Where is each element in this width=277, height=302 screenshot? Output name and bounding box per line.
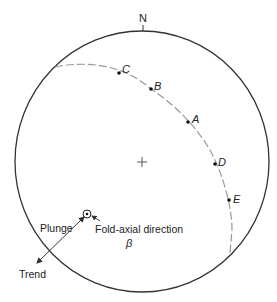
- point-d: D: [213, 156, 226, 168]
- svg-text:A: A: [191, 113, 199, 125]
- plunge-label: Plunge: [40, 222, 73, 234]
- stereonet-diagram: N C B A D E Plunge Trend Fold-axial dire…: [0, 0, 277, 302]
- fold-axial-label: Fold-axial direction: [95, 223, 183, 235]
- svg-text:E: E: [233, 193, 241, 205]
- point-b: B: [149, 80, 161, 92]
- fold-axis-point: [83, 210, 91, 218]
- svg-text:D: D: [218, 156, 226, 168]
- beta-label: β: [125, 237, 133, 249]
- north-label: N: [139, 12, 147, 24]
- svg-text:C: C: [122, 63, 130, 75]
- svg-text:B: B: [154, 80, 161, 92]
- point-c: C: [117, 63, 130, 75]
- point-a: A: [186, 113, 199, 125]
- fold-axial-pointer: [92, 216, 100, 221]
- trend-label: Trend: [19, 268, 46, 280]
